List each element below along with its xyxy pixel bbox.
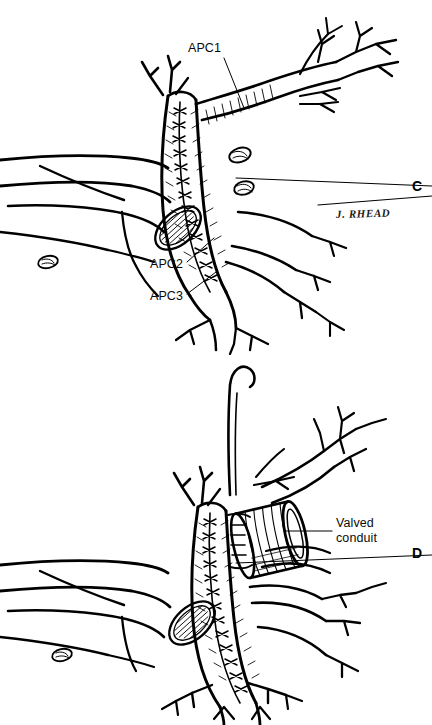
panel-c: APC1 APC2 APC3 J. RHEAD C: [0, 0, 432, 355]
panel-letter-c: C: [412, 178, 422, 194]
figure-canvas: APC1 APC2 APC3 J. RHEAD C: [0, 0, 432, 725]
label-apc3: APC3: [150, 289, 183, 304]
label-apc1: APC1: [188, 41, 221, 56]
label-valved-conduit-line2: conduit: [336, 531, 377, 546]
label-valved-conduit-line1: Valved: [336, 516, 377, 531]
panel-letter-d: D: [412, 545, 422, 561]
panel-d: Valved conduit D: [0, 355, 432, 725]
label-apc2: APC2: [150, 257, 183, 272]
artist-signature: J. RHEAD: [336, 207, 391, 220]
label-valved-conduit: Valved conduit: [336, 516, 377, 547]
